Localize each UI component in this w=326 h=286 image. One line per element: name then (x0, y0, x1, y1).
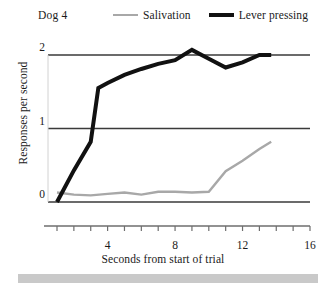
footer-band (18, 274, 318, 283)
x-tick-label: 12 (232, 240, 254, 251)
x-tick-label: 16 (299, 240, 321, 251)
x-axis (44, 226, 310, 231)
y-tick-label: 0 (33, 189, 45, 200)
data-series (57, 50, 271, 202)
chart-figure: Dog 4 Salivation Lever pressing Response… (0, 0, 326, 286)
x-tick-label: 8 (164, 240, 186, 251)
y-tick-label: 1 (33, 116, 45, 127)
x-tick-label: 4 (97, 240, 119, 251)
plot-area (0, 0, 326, 286)
gridlines (48, 55, 310, 202)
y-tick-label: 2 (33, 42, 45, 53)
